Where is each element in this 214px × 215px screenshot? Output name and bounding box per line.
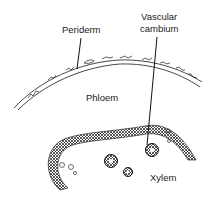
phloem-label: Phloem xyxy=(86,92,118,103)
stem-cross-section-diagram: Periderm Vascular cambium Phloem Xylem xyxy=(0,0,214,215)
vascular-cambium-label-line1: Vascular xyxy=(141,11,177,22)
periderm-leader-line xyxy=(77,38,81,69)
xylem-label: Xylem xyxy=(150,172,176,183)
vascular-cambium-label-line2: cambium xyxy=(140,23,179,34)
periderm-label: Periderm xyxy=(62,24,101,35)
